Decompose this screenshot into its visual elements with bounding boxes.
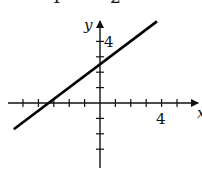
y-tick-label-4: 4 bbox=[104, 33, 114, 51]
y-axis-label: y bbox=[83, 16, 93, 34]
cut-fraction-denominator-right: 2 bbox=[110, 0, 121, 6]
graph-figure: 4 2 4 4 y x bbox=[0, 0, 202, 169]
x-axis-label: x bbox=[197, 104, 202, 122]
plotted-line bbox=[14, 21, 157, 129]
cut-fraction-denominator-left: 4 bbox=[50, 0, 61, 6]
x-tick-label-4: 4 bbox=[156, 110, 166, 128]
coordinate-plane: 4 4 y x bbox=[0, 0, 202, 169]
